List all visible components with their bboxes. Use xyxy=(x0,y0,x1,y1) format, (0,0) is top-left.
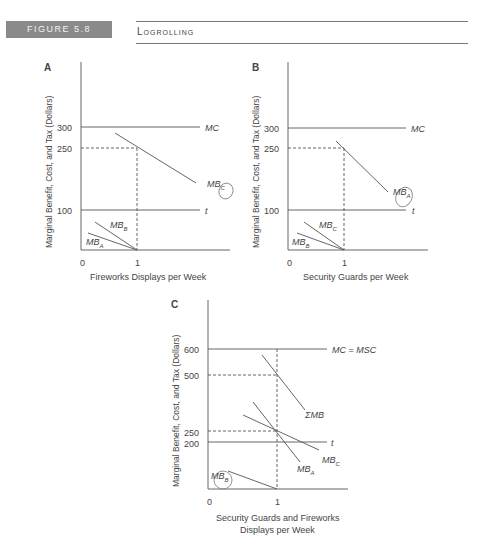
panel-a-tick-x0: 0 xyxy=(80,258,85,268)
panel-c-smb-label: ΣMB xyxy=(304,410,324,420)
panel-c-tick-500: 500 xyxy=(184,371,199,381)
panel-b-t-label: t xyxy=(412,206,415,216)
panel-a-tick-x1: 1 xyxy=(135,258,140,268)
panel-a-tick-100: 100 xyxy=(57,206,72,216)
panel-a-mbc-line xyxy=(115,133,196,183)
panel-a xyxy=(81,62,235,250)
panel-c-t-label: t xyxy=(331,438,334,448)
charts-canvas: A 300 250 100 0 1 MC t MBC MBB MBA Firew… xyxy=(0,0,487,556)
panel-a-mbc-label: MBC xyxy=(207,179,226,191)
panel-c-tick-x1: 1 xyxy=(275,497,280,507)
panel-a-mba-label: MBA xyxy=(86,237,104,249)
panel-a-t-label: t xyxy=(205,206,208,216)
panel-a-y-axis-label: Marginal Benefit, Cost, and Tax (Dollars… xyxy=(44,95,54,248)
panel-b-tick-100: 100 xyxy=(264,206,279,216)
panel-a-tick-250: 250 xyxy=(57,144,72,154)
panel-b-tick-250: 250 xyxy=(264,144,279,154)
panel-b-x-axis-label: Security Guards per Week xyxy=(303,272,409,282)
panel-c-tick-600: 600 xyxy=(184,345,199,355)
panel-c-mbb-line xyxy=(228,471,277,489)
panel-b-labels: B 300 250 100 0 1 MC t MBA MBC MBB Secur… xyxy=(251,62,425,282)
panel-c-mc-label: MC = MSC xyxy=(332,345,377,355)
panel-c-y-axis-label: Marginal Benefit, Cost, and Tax (Dollars… xyxy=(171,334,181,487)
panel-c-mbc-line xyxy=(243,415,319,450)
panel-a-tick-300: 300 xyxy=(57,123,72,133)
panel-c-mbc-label: MBC xyxy=(322,455,341,467)
panel-c-mba-line xyxy=(253,402,300,462)
panel-c-x-axis-label-line2: Displays per Week xyxy=(240,525,315,535)
panel-b-tick-x1: 1 xyxy=(342,258,347,268)
panel-b-mbb-label: MBB xyxy=(292,237,310,249)
panel-c-tick-250: 250 xyxy=(184,428,199,438)
panel-c-title: C xyxy=(171,299,178,310)
panel-c-tick-x0: 0 xyxy=(207,497,212,507)
panel-a-title: A xyxy=(44,62,51,73)
panel-b-mc-label: MC xyxy=(411,124,425,134)
panel-b-tick-300: 300 xyxy=(264,124,279,134)
panel-b-title: B xyxy=(252,62,259,73)
panel-a-x-axis-label: Fireworks Displays per Week xyxy=(90,272,207,282)
panel-c-smb-line xyxy=(262,355,305,410)
panel-c-tick-200: 200 xyxy=(184,439,199,449)
panel-a-mbb-label: MBB xyxy=(110,220,128,232)
panel-b-mbc-label: MBC xyxy=(319,220,338,232)
panel-c-labels: C 600 500 250 200 0 1 MC = MSC t ΣMB MBA… xyxy=(171,299,377,535)
panel-c-mba-label: MBA xyxy=(297,464,315,476)
panel-b xyxy=(288,62,428,250)
panel-c-x-axis-label-line1: Security Guards and Fireworks xyxy=(216,513,340,523)
panel-b-y-axis-label: Marginal Benefit, Cost, and Tax (Dollars… xyxy=(251,95,261,248)
panel-b-tick-x0: 0 xyxy=(287,258,292,268)
panel-a-mc-label: MC xyxy=(205,123,219,133)
